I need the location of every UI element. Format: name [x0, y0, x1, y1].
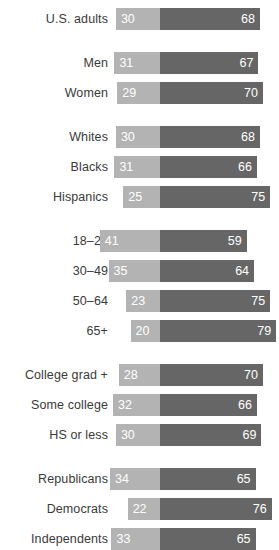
group-spacer — [0, 454, 279, 468]
bar-row-label: Men — [0, 52, 108, 74]
bar-row-label: Some college — [0, 394, 108, 416]
bar-value-right: 70 — [244, 82, 258, 104]
bar-row[interactable]: U.S. adults3068 — [0, 8, 279, 30]
bar-segment-right: 70 — [160, 364, 263, 386]
bar-segment-right: 75 — [160, 186, 270, 208]
bar-segment-left: 31 — [114, 52, 160, 74]
bar-value-right: 66 — [238, 394, 252, 416]
bar-row-label: Democrats — [0, 498, 108, 520]
bar-segment-left: 30 — [116, 424, 160, 446]
stacked-bar: 3069 — [116, 424, 262, 446]
bar-value-left: 31 — [119, 52, 133, 74]
bar-row-label: 65+ — [0, 320, 108, 342]
bar-segment-left: 35 — [109, 260, 160, 282]
bar-row[interactable]: Hispanics2575 — [0, 186, 279, 208]
stacked-bar: 3365 — [111, 528, 255, 550]
bar-segment-left: 33 — [111, 528, 160, 550]
bar-value-left: 35 — [114, 260, 128, 282]
bar-row[interactable]: Independents3365 — [0, 528, 279, 550]
bar-row[interactable]: Republicans3465 — [0, 468, 279, 490]
bar-segment-right: 68 — [160, 126, 260, 148]
bar-value-right: 59 — [228, 230, 242, 252]
bar-segment-right: 66 — [160, 156, 257, 178]
bar-row[interactable]: 50–642375 — [0, 290, 279, 312]
bar-segment-right: 76 — [160, 498, 272, 520]
bar-value-left: 23 — [131, 290, 145, 312]
bar-row-label: Hispanics — [0, 186, 108, 208]
bar-segment-left: 31 — [114, 156, 160, 178]
group-spacer — [0, 38, 279, 52]
stacked-bar: 2276 — [128, 498, 272, 520]
stacked-bar: 3068 — [116, 126, 260, 148]
bar-group-gender: Men3167Women2970 — [0, 52, 279, 104]
bar-segment-right: 67 — [160, 52, 258, 74]
bar-row-label: Blacks — [0, 156, 108, 178]
bar-row[interactable]: Women2970 — [0, 82, 279, 104]
bar-row[interactable]: 18–294159 — [0, 230, 279, 252]
bar-segment-right: 66 — [160, 394, 257, 416]
bar-value-right: 66 — [238, 156, 252, 178]
stacked-bar: 3167 — [114, 52, 258, 74]
bar-segment-right: 69 — [160, 424, 261, 446]
bar-value-right: 68 — [241, 126, 255, 148]
bar-value-right: 75 — [251, 186, 265, 208]
stacked-bar: 3266 — [113, 394, 257, 416]
stacked-bar: 3564 — [109, 260, 255, 282]
bar-row-label: 50–64 — [0, 290, 108, 312]
stacked-bar: 2970 — [117, 82, 263, 104]
bar-value-left: 30 — [121, 8, 135, 30]
bar-row[interactable]: Democrats2276 — [0, 498, 279, 520]
bar-row-label: 18–29 — [0, 230, 108, 252]
stacked-bar: 4159 — [100, 230, 247, 252]
bar-segment-left: 22 — [128, 498, 160, 520]
bar-segment-right: 70 — [160, 82, 263, 104]
bar-value-left: 22 — [133, 498, 147, 520]
bar-value-right: 65 — [237, 528, 251, 550]
bar-group-race: Whites3068Blacks3166Hispanics2575 — [0, 126, 279, 208]
bar-value-right: 67 — [240, 52, 254, 74]
stacked-bar: 3465 — [110, 468, 256, 490]
bar-segment-left: 32 — [113, 394, 160, 416]
bar-row-label: Independents — [0, 528, 108, 550]
bar-row[interactable]: 30–493564 — [0, 260, 279, 282]
bar-value-right: 65 — [237, 468, 251, 490]
bar-value-right: 69 — [243, 424, 257, 446]
bar-row[interactable]: Men3167 — [0, 52, 279, 74]
bar-segment-right: 65 — [160, 528, 256, 550]
bar-segment-left: 29 — [117, 82, 160, 104]
bar-value-left: 30 — [121, 126, 135, 148]
bar-row-label: Republicans — [0, 468, 108, 490]
stacked-bar: 2079 — [131, 320, 277, 342]
bar-segment-right: 65 — [160, 468, 256, 490]
stacked-bar: 2870 — [119, 364, 263, 386]
stacked-bar: 3166 — [114, 156, 257, 178]
bar-group-total: U.S. adults3068 — [0, 8, 279, 30]
bar-segment-left: 23 — [126, 290, 160, 312]
bar-value-left: 25 — [128, 186, 142, 208]
stacked-bar: 3068 — [116, 8, 260, 30]
bar-group-age: 18–29415930–49356450–64237565+2079 — [0, 230, 279, 342]
bar-row-label: HS or less — [0, 424, 108, 446]
bar-row[interactable]: Some college3266 — [0, 394, 279, 416]
bar-segment-left: 28 — [119, 364, 160, 386]
bar-value-left: 29 — [122, 82, 136, 104]
bar-row[interactable]: 65+2079 — [0, 320, 279, 342]
bar-segment-right: 59 — [160, 230, 247, 252]
group-spacer — [0, 112, 279, 126]
bar-value-left: 31 — [119, 156, 133, 178]
bar-row[interactable]: Blacks3166 — [0, 156, 279, 178]
bar-row-label: College grad + — [0, 364, 108, 386]
bar-value-right: 68 — [241, 8, 255, 30]
bar-row[interactable]: Whites3068 — [0, 126, 279, 148]
bar-row[interactable]: College grad +2870 — [0, 364, 279, 386]
bar-value-left: 32 — [118, 394, 132, 416]
bar-row-label: Women — [0, 82, 108, 104]
bar-value-right: 64 — [235, 260, 249, 282]
bar-row-label: U.S. adults — [0, 8, 108, 30]
bar-segment-left: 41 — [100, 230, 160, 252]
stacked-bar: 2575 — [123, 186, 270, 208]
bar-value-left: 28 — [124, 364, 138, 386]
bar-group-party: Republicans3465Democrats2276Independents… — [0, 468, 279, 550]
bar-row[interactable]: HS or less3069 — [0, 424, 279, 446]
